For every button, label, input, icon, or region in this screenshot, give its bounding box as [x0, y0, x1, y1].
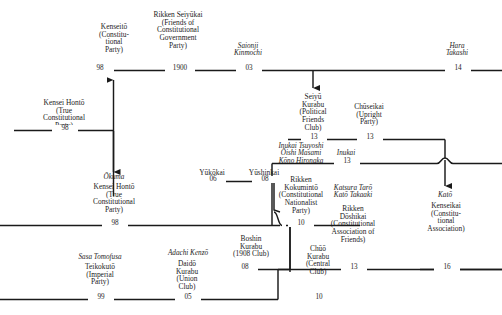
node-chuseikai-name: Chūseikai(UprightParty): [343, 103, 395, 126]
year-hara: 14: [445, 65, 471, 72]
year-inukai: 13: [334, 158, 360, 165]
diagram-canvas: Kenseitō(Constitu-tionalParty) 98 Rikken…: [0, 0, 502, 315]
year-daido-kurabu: 05: [175, 294, 201, 301]
node-okuma: Kensei Hontō(TrueConstitutionalParty): [72, 183, 156, 214]
year-seiyu-kurabu: 13: [301, 134, 327, 141]
node-kenseikai: Kenseikai(Constitu-tionalAssociation): [412, 202, 480, 233]
year-rikken-seiyukai: 1900: [165, 65, 195, 72]
year-kenseikai: 16: [434, 264, 460, 271]
year-saionji: 03: [236, 65, 262, 72]
year-teikokuto: 99: [88, 294, 114, 301]
node-rikken-doshikai-name: RikkenDōshikai(ConstitutionalAssociation…: [312, 205, 394, 243]
year-kenseito: 98: [86, 65, 114, 72]
node-boshin-kurabu-name: BoshinKurabu(1908 Club): [220, 235, 282, 258]
node-boshin-kurabu: BoshinKurabu(1908 Club): [220, 235, 282, 258]
node-saionji-leader: SaionjiKinmochi: [218, 43, 278, 58]
year-boshin-kurabu: 08: [232, 264, 258, 271]
node-chuo-kurabu-name: ChūōKurabu(CentralClub): [292, 245, 344, 276]
year-yukokai: 06: [200, 176, 226, 183]
year-okuma: 98: [102, 220, 128, 227]
node-seiyu-kurabu-name: SeiyūKurabu(PoliticalFriendsClub): [288, 93, 338, 131]
year-chuo-kurabu: 10: [306, 294, 332, 301]
node-okuma-name: Kensei Hontō(TrueConstitutionalParty): [72, 183, 156, 214]
year-rikken-doshikai: 13: [341, 264, 367, 271]
year-kensei-honto-top: 98: [52, 125, 78, 132]
node-rikken-doshikai: RikkenDōshikai(ConstitutionalAssociation…: [312, 205, 394, 243]
node-seiyu-kurabu: SeiyūKurabu(PoliticalFriendsClub): [288, 93, 338, 131]
node-rikken-seiyukai: Rikken Seiyūkai(Friends ofConstitutional…: [134, 11, 222, 49]
node-rikken-seiyukai-name: Rikken Seiyūkai(Friends ofConstitutional…: [134, 11, 222, 49]
node-daido-leader: Adachi Kenzō: [152, 250, 224, 257]
year-rikken-kokuminto: 10: [288, 220, 314, 227]
node-teikokuto-leader: Sasa Tomofusa: [58, 254, 142, 261]
node-teikokuto: Teikokutō(ImperialParty): [66, 263, 134, 286]
node-chuseikai: Chūseikai(UprightParty): [343, 103, 395, 126]
year-chuseikai: 13: [357, 134, 383, 141]
node-hara-leader: HaraTakashi: [428, 43, 486, 58]
node-doshikai-leader: Katsura TarōKatō Takaaki: [316, 185, 390, 200]
node-kenseikai-leader: Katō: [424, 192, 466, 199]
node-teikokuto-name: Teikokutō(ImperialParty): [66, 263, 134, 286]
node-daido-kurabu: DaidōKurabu(UnionClub): [158, 260, 216, 291]
node-chuo-kurabu: ChūōKurabu(CentralClub): [292, 245, 344, 276]
node-okuma-leader: Ōkuma: [88, 174, 140, 181]
node-daido-kurabu-name: DaidōKurabu(UnionClub): [158, 260, 216, 291]
node-kenseikai-name: Kenseikai(Constitu-tionalAssociation): [412, 202, 480, 233]
